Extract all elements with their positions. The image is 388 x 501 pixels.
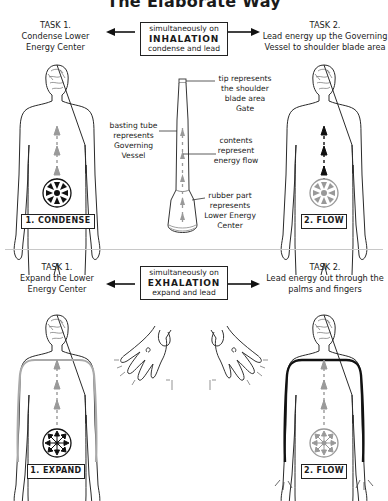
step-flow-label: 2. FLOW bbox=[301, 214, 347, 229]
expand-wheel-icon bbox=[43, 429, 71, 457]
inhalation-box-line3: condense and lead bbox=[145, 44, 223, 54]
exhalation-box-phase: EXHALATION bbox=[145, 278, 223, 288]
label-line: basting tube bbox=[106, 121, 161, 131]
inhale-task1-heading: TASK 1. bbox=[8, 20, 103, 31]
tube-rubber-label: rubber part represents Lower Energy Cent… bbox=[200, 191, 260, 231]
tube-contents-label: contents represent energy flow bbox=[208, 136, 264, 166]
inhale-task1: TASK 1. Condense Lower Energy Center bbox=[8, 20, 103, 53]
section-divider bbox=[5, 249, 383, 250]
exhale-task1-line: Expand the Lower bbox=[12, 273, 102, 284]
exhale-task1: TASK 1. Expand the Lower Energy Center bbox=[12, 262, 102, 295]
inhale-task2: TASK 2. Lead energy up the Governing Ves… bbox=[262, 20, 388, 53]
label-line: Governing bbox=[106, 141, 161, 151]
step-flow-exhale-label: 2. FLOW bbox=[301, 464, 347, 479]
tube-body-label: basting tube represents Governing Vessel bbox=[106, 121, 161, 161]
label-line: Gate bbox=[214, 104, 276, 114]
inhalation-box: simultaneously on INHALATION condense an… bbox=[140, 22, 228, 56]
exhale-task1-heading: TASK 1. bbox=[12, 262, 102, 273]
step-condense-label: 1. CONDENSE bbox=[21, 214, 95, 229]
left-hand-icon bbox=[114, 326, 172, 390]
label-line: represents bbox=[200, 201, 260, 211]
tube-tip-label: tip represents the shoulder blade area G… bbox=[214, 74, 276, 114]
right-hand-icon bbox=[210, 326, 268, 390]
condense-wheel-icon bbox=[43, 179, 71, 207]
exhalation-box-line1: simultaneously on bbox=[145, 268, 223, 278]
energy-arrows-gray-right bbox=[321, 360, 327, 425]
label-line: energy flow bbox=[208, 156, 264, 166]
label-line: blade area bbox=[214, 94, 276, 104]
label-line: the shoulder bbox=[214, 84, 276, 94]
label-line: represent bbox=[208, 146, 264, 156]
label-line: Lower Energy bbox=[200, 211, 260, 221]
illustration-canvas bbox=[0, 0, 388, 501]
inhale-task1-line: Energy Center bbox=[8, 42, 103, 53]
label-line: contents bbox=[208, 136, 264, 146]
inhale-task2-line: Lead energy up the Governing bbox=[262, 31, 388, 42]
step-expand-label: 1. EXPAND bbox=[27, 464, 85, 479]
label-line: tip represents bbox=[214, 74, 276, 84]
exhalation-box: simultaneously on EXHALATION expand and … bbox=[140, 266, 228, 300]
exhalation-box-line3: expand and lead bbox=[145, 288, 223, 298]
exhale-task2-line: palms and fingers bbox=[262, 284, 388, 295]
exhale-task2-heading: TASK 2. bbox=[262, 262, 388, 273]
expand-wheel-gray-icon bbox=[310, 429, 338, 457]
exhale-task2: TASK 2. Lead energy out through the palm… bbox=[262, 262, 388, 295]
finger-rays bbox=[275, 480, 373, 490]
inhale-task2-line: Vessel to shoulder blade area bbox=[262, 42, 388, 53]
inhalation-box-phase: INHALATION bbox=[145, 34, 223, 44]
label-line: Vessel bbox=[106, 151, 161, 161]
flow-wheel-icon bbox=[310, 179, 338, 207]
inhalation-box-line1: simultaneously on bbox=[145, 24, 223, 34]
label-line: represents bbox=[106, 131, 161, 141]
label-line: Center bbox=[200, 221, 260, 231]
exhale-task1-line: Energy Center bbox=[12, 284, 102, 295]
inhale-task1-line: Condense Lower bbox=[8, 31, 103, 42]
exhale-task2-line: Lead energy out through the bbox=[262, 273, 388, 284]
inhale-task2-heading: TASK 2. bbox=[262, 20, 388, 31]
energy-arrows-gray bbox=[54, 360, 60, 425]
label-line: rubber part bbox=[200, 191, 260, 201]
